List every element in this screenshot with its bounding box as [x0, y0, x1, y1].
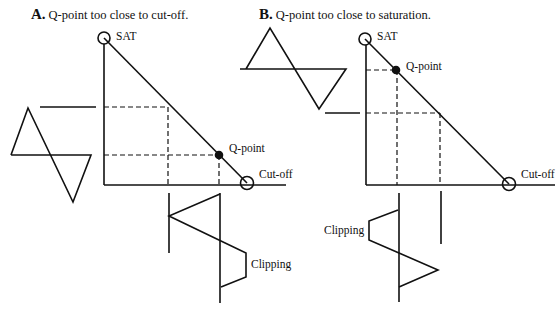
panel-b-letter: B. [259, 6, 273, 22]
panel-b-title-text: Q-point too close to saturation. [276, 8, 431, 22]
panel-b-title: B.Q-point too close to saturation. [259, 6, 431, 23]
panel-a-output-wave [169, 193, 246, 303]
panel-a-cutoff-label: Cut-off [259, 168, 293, 180]
panel-b-graph [359, 33, 555, 191]
panel-a-qpoint-dot [216, 152, 223, 159]
panel-b-sat-label: SAT [377, 30, 397, 42]
panel-b-clipping-label: Clipping [324, 224, 364, 236]
panel-a-sat-label: SAT [116, 30, 136, 42]
panel-a-clipping-label: Clipping [251, 258, 291, 270]
panel-a-load-line [104, 38, 247, 183]
panel-a-graph [98, 32, 286, 190]
panel-a-title-text: Q-point too close to cut-off. [49, 8, 189, 22]
panel-a-output-clipped-wave [169, 194, 246, 287]
panel-a-letter: A. [31, 6, 46, 22]
panel-b-input-triangle [240, 28, 346, 109]
panel-a-input-triangle [11, 108, 91, 202]
panel-b-cutoff-label: Cut-off [521, 168, 555, 180]
panel-b-input-wave [240, 28, 360, 113]
panel-b-output-wave [369, 191, 441, 302]
panel-b-qpoint-dot [393, 67, 400, 74]
panel-a-qpoint-label: Q-point [229, 142, 265, 154]
panel-b-output-clipped-wave [369, 210, 438, 287]
panel-a-input-wave [11, 107, 96, 202]
panel-a-title: A.Q-point too close to cut-off. [31, 6, 188, 23]
panel-b-qpoint-label: Q-point [406, 60, 442, 72]
